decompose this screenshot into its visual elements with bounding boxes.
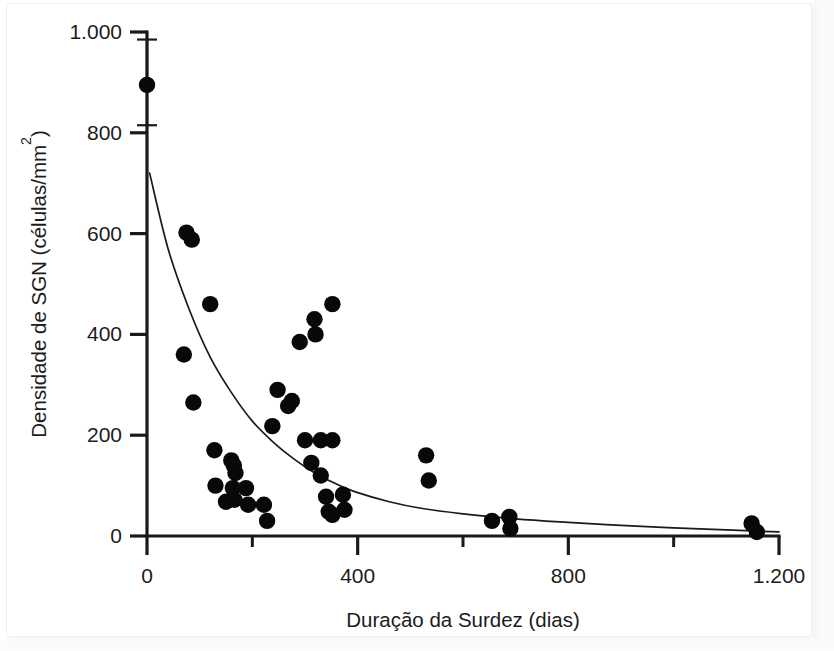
y-tick-label-0: 0 <box>110 524 122 547</box>
data-point <box>749 524 765 540</box>
data-points-group <box>139 77 765 540</box>
data-point <box>139 77 155 93</box>
data-point <box>259 513 275 529</box>
y-tick-label-1000: 1.000 <box>69 20 122 43</box>
tick-labels-group: 02004006008001.00004008001.200 <box>69 20 805 587</box>
data-point <box>264 418 280 434</box>
data-point <box>240 497 256 513</box>
data-point <box>238 480 254 496</box>
y-tick-label-600: 600 <box>87 222 122 245</box>
data-point <box>324 432 340 448</box>
x-tick-label-400: 400 <box>340 564 375 587</box>
data-point <box>313 467 329 483</box>
data-point <box>318 488 334 504</box>
data-point <box>185 394 201 410</box>
x-axis-title: Duração da Surdez (dias) <box>346 608 580 631</box>
x-tick-label-1200: 1.200 <box>753 564 806 587</box>
data-point <box>292 334 308 350</box>
y-tick-label-200: 200 <box>87 423 122 446</box>
x-tick-label-800: 800 <box>551 564 586 587</box>
data-point <box>335 486 351 502</box>
y-tick-label-400: 400 <box>87 322 122 345</box>
data-point <box>418 447 434 463</box>
figure-root: 02004006008001.00004008001.200 Duração d… <box>0 0 834 651</box>
axis-titles-group: Duração da Surdez (dias)Densidade de SGN… <box>18 130 580 631</box>
data-point <box>502 520 518 536</box>
data-point <box>297 432 313 448</box>
x-tick-label-0: 0 <box>141 564 153 587</box>
ticks-group <box>130 32 779 555</box>
data-point <box>306 311 322 327</box>
data-point <box>227 465 243 481</box>
data-point <box>484 513 500 529</box>
data-point <box>284 393 300 409</box>
data-point <box>202 296 218 312</box>
data-point <box>336 502 352 518</box>
data-point <box>421 472 437 488</box>
data-point <box>206 442 222 458</box>
data-point <box>218 494 234 510</box>
y-tick-label-800: 800 <box>87 121 122 144</box>
scatter-plot: 02004006008001.00004008001.200 Duração d… <box>0 0 834 651</box>
data-point <box>256 497 272 513</box>
data-point <box>307 326 323 342</box>
data-point <box>324 296 340 312</box>
data-point <box>184 231 200 247</box>
fit-curve-group <box>150 173 779 532</box>
data-point <box>269 382 285 398</box>
fit-curve <box>150 173 779 532</box>
data-point <box>207 477 223 493</box>
data-point <box>176 346 192 362</box>
axis-spines <box>147 32 779 536</box>
axes-group <box>147 32 779 536</box>
y-axis-title: Densidade de SGN (células/mm2) <box>18 130 50 437</box>
